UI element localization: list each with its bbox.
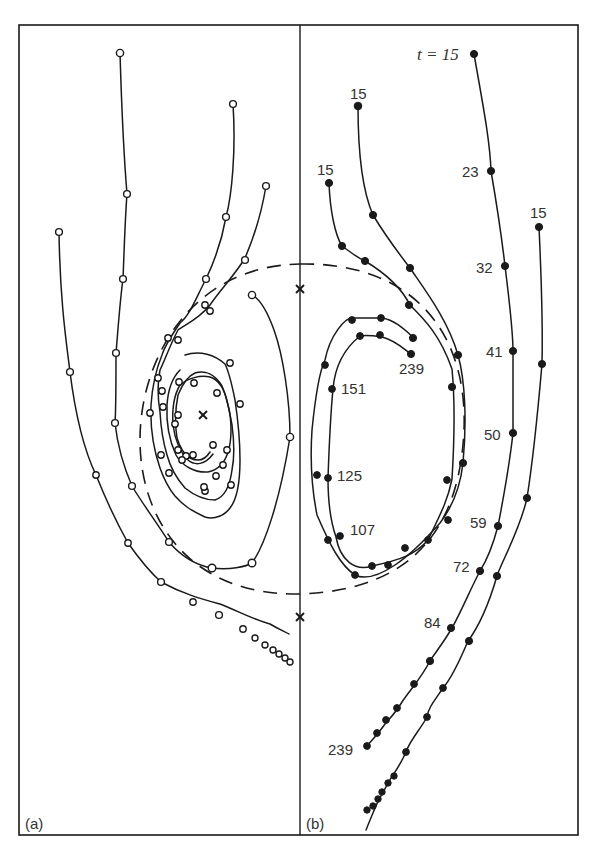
phase-portrait-figure: t = 15 15 15 15 23 32 41 50 59 72 84 239… bbox=[0, 0, 602, 860]
label-23: 23 bbox=[462, 163, 479, 180]
label-151: 151 bbox=[341, 380, 366, 397]
trajectory-b-right bbox=[366, 227, 542, 830]
panel-a-trajectories bbox=[59, 53, 290, 634]
label-50: 50 bbox=[484, 426, 501, 443]
time-labels: t = 15 15 15 15 23 32 41 50 59 72 84 239… bbox=[317, 45, 547, 758]
trajectory-b-outer bbox=[367, 54, 513, 746]
panel-a-markers bbox=[56, 49, 294, 665]
label-125: 125 bbox=[337, 467, 362, 484]
label-107: 107 bbox=[350, 521, 375, 538]
label-72: 72 bbox=[453, 558, 470, 575]
panel-a-label: (a) bbox=[25, 815, 43, 832]
label-41: 41 bbox=[486, 343, 503, 360]
label-15-mid: 15 bbox=[350, 85, 367, 102]
trajectory-b-mid bbox=[311, 106, 465, 577]
panel-b-label: (b) bbox=[306, 815, 324, 832]
label-239-inner: 239 bbox=[399, 360, 424, 377]
trajectory-b-inner bbox=[328, 183, 454, 568]
panel-b-markers bbox=[314, 50, 546, 813]
label-239-outer: 239 bbox=[328, 741, 353, 758]
focus-point-icon bbox=[199, 411, 207, 419]
label-15-right: 15 bbox=[530, 204, 547, 221]
label-t-prefix: t = 15 bbox=[417, 45, 459, 64]
label-32: 32 bbox=[476, 259, 493, 276]
label-84: 84 bbox=[424, 614, 441, 631]
label-59: 59 bbox=[470, 514, 487, 531]
label-15-inner: 15 bbox=[317, 161, 334, 178]
